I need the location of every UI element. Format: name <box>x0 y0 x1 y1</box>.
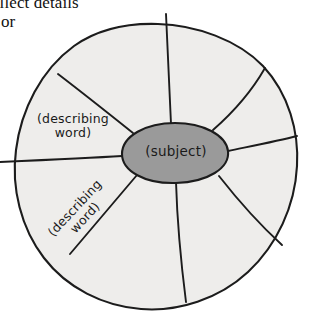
describing-word-label-1: (describing word) <box>25 112 121 140</box>
describing-word-label-1-line-2: word) <box>25 126 121 140</box>
center-subject-label-text: (subject) <box>128 144 224 158</box>
wheel-diagram <box>0 0 312 318</box>
diagram-canvas: ollect details or (subject) (describing … <box>0 0 312 318</box>
describing-word-label-1-line-1: (describing <box>25 112 121 126</box>
center-subject-label: (subject) <box>128 144 224 158</box>
